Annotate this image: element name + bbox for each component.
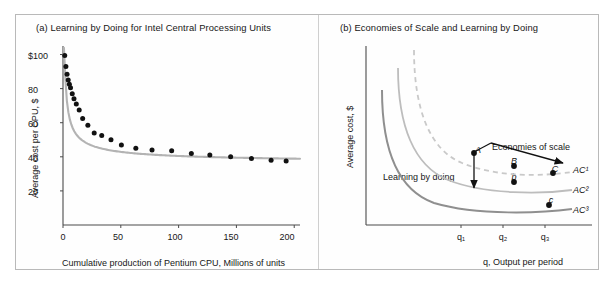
panel-b-point-A — [471, 150, 477, 156]
panel-b-plot — [0, 0, 616, 289]
panel-b-point-c — [546, 202, 552, 208]
figure-root: (a) Learning by Doing for Intel Central … — [0, 0, 616, 289]
panel-b-curve-ac1 — [414, 50, 572, 175]
panel-b-point-B — [511, 163, 517, 169]
panel-b-economies-of-scale-arrow — [491, 143, 563, 163]
panel-b-curve-ac2 — [398, 68, 572, 193]
panel-b-curve-ac3 — [382, 90, 572, 212]
panel-b-point-b — [511, 179, 517, 185]
panel-b-point-C — [550, 170, 556, 176]
panel-b-economies-leader-line — [474, 143, 491, 152]
